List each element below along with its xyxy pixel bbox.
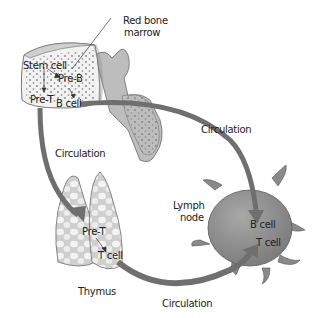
label-lymph-node-line1: Lymph — [173, 200, 205, 211]
label-t-cell-thymus: T cell — [98, 250, 123, 261]
label-b-cell-marrow: B cell — [56, 98, 81, 109]
label-circulation-top: Circulation — [201, 124, 251, 135]
label-thymus: Thymus — [78, 286, 116, 297]
label-red-bone-marrow-line1: Red bone — [123, 15, 168, 26]
label-pre-t-marrow: Pre-T — [30, 94, 53, 105]
lymph-node-illustration — [192, 165, 305, 284]
label-red-bone-marrow-line2: marrow — [124, 27, 160, 38]
label-pre-b: Pre-B — [58, 73, 83, 84]
label-lymph-node-line2: node — [180, 212, 204, 223]
label-b-cell-node: B cell — [250, 219, 275, 230]
label-circulation-left: Circulation — [55, 148, 105, 159]
diagram-canvas — [0, 0, 328, 318]
label-t-cell-node: T cell — [256, 237, 281, 248]
label-pre-t-thymus: Pre-T — [82, 226, 105, 237]
label-circulation-bottom: Circulation — [162, 298, 212, 309]
label-stem-cell: Stem cell — [23, 60, 67, 71]
